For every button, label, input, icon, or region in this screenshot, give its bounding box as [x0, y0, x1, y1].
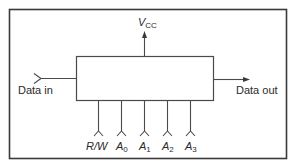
pin-a2: A2 — [161, 100, 174, 154]
pin-a1: A1 — [138, 100, 151, 154]
pin-a0: A0 — [115, 100, 128, 154]
data-out-arrow-icon — [243, 77, 250, 82]
data-in-connection: Data in — [18, 74, 76, 97]
chip-block — [77, 57, 214, 101]
data-out-connection: Data out — [213, 77, 278, 96]
vcc-connection: VCC — [138, 16, 157, 56]
pin-a3-label: A3 — [184, 140, 197, 154]
vcc-label: VCC — [138, 16, 157, 30]
pin-a1-label: A1 — [138, 140, 151, 154]
pin-a0-label: A0 — [115, 140, 128, 154]
vcc-arrow-icon — [142, 31, 147, 38]
pin-a3: A3 — [184, 100, 197, 154]
data-in-fork-icon — [34, 74, 41, 84]
pin-a2-fork-icon — [163, 131, 172, 136]
pin-a0-fork-icon — [117, 131, 126, 136]
pin-rw: R/W — [86, 100, 109, 152]
pin-a1-fork-icon — [140, 131, 149, 136]
pin-rw-label: R/W — [86, 140, 109, 152]
memory-block-diagram: VCC Data in Data out R/W A0 A1 — [0, 0, 293, 167]
pin-a3-fork-icon — [186, 131, 195, 136]
data-out-label: Data out — [236, 84, 278, 96]
pin-rw-fork-icon — [94, 131, 103, 136]
data-in-label: Data in — [18, 84, 53, 96]
pin-a2-label: A2 — [161, 140, 174, 154]
